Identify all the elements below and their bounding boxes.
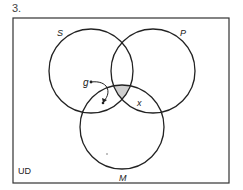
label-ud: UD: [18, 166, 31, 176]
venn-diagram: S P M UD g x: [0, 0, 243, 190]
circle-s: [49, 29, 133, 113]
circle-p: [111, 29, 195, 113]
mark-x: x: [136, 98, 142, 108]
stray-dot: [106, 153, 107, 154]
label-p: P: [180, 28, 186, 38]
label-m: M: [119, 173, 127, 183]
label-g: g: [83, 77, 89, 88]
label-s: S: [57, 28, 63, 38]
g-target-dot: [102, 102, 105, 105]
